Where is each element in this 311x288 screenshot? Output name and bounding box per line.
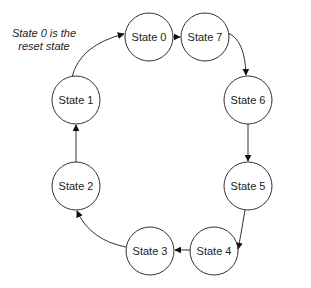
annotation-line-2: reset state <box>18 40 69 52</box>
edge-7-to-6 <box>228 33 246 75</box>
state-node-3[interactable]: State 3 <box>126 227 174 275</box>
state-node-0[interactable]: State 0 <box>125 13 173 61</box>
state-label: State 2 <box>59 180 94 192</box>
state-node-2[interactable]: State 2 <box>52 162 100 210</box>
state-node-4[interactable]: State 4 <box>190 227 238 275</box>
state-label: State 6 <box>231 94 266 106</box>
edge-3-to-2 <box>77 211 126 247</box>
state-diagram: State 0 State 7 State 6 State 5 State 4 … <box>0 0 311 288</box>
reset-state-annotation: State 0 is the reset state <box>12 27 76 52</box>
state-label: State 5 <box>231 180 266 192</box>
state-node-7[interactable]: State 7 <box>181 13 229 61</box>
annotation-line-1: State 0 is the <box>12 27 76 39</box>
state-label: State 4 <box>197 245 232 257</box>
state-label: State 0 <box>132 31 167 43</box>
state-label: State 7 <box>188 31 223 43</box>
state-node-5[interactable]: State 5 <box>224 162 272 210</box>
transitions <box>72 33 248 250</box>
state-label: State 1 <box>59 94 94 106</box>
state-node-6[interactable]: State 6 <box>224 76 272 124</box>
edge-1-to-0 <box>72 34 124 77</box>
state-label: State 3 <box>133 245 168 257</box>
edge-5-to-4 <box>238 210 245 249</box>
state-node-1[interactable]: State 1 <box>52 76 100 124</box>
